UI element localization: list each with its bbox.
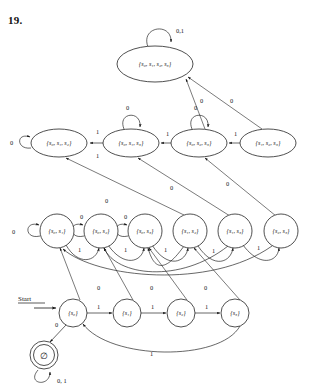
state-label-s0: {s₀} <box>68 309 78 317</box>
state-node-s2[interactable]: {s₂} <box>167 299 195 327</box>
edge-s013-self <box>123 115 140 129</box>
state-label-empty: ∅ <box>40 351 48 361</box>
edge-s23-s01-arc <box>63 246 272 275</box>
edge-label-s123-s0123: 0 <box>230 97 233 104</box>
edge-s12-s012 <box>66 158 184 215</box>
state-node-s02[interactable]: {s₀, s₂} <box>84 214 118 248</box>
edge-label-s013-s012: 1 <box>96 128 99 135</box>
edge-label-s02-self: 0 <box>80 213 83 220</box>
state-label-s013: {s₀, s₁, s₃} <box>119 139 144 147</box>
edge-label-s13-s013: 0 <box>170 184 173 191</box>
state-diagram: {s₀, s₁, s₂, s₃} {s₀, s₁, s₂} {s₀, s₁, s… <box>0 0 310 388</box>
edge-label-s123-s023: 1 <box>234 130 237 137</box>
edge-label-s0-s1: 1 <box>97 303 100 310</box>
edge-s0123-self <box>147 29 171 47</box>
edge-label-s023-s013: 1 <box>166 130 169 137</box>
edge-label-s0123-self: 0,1 <box>176 27 184 34</box>
state-node-s023[interactable]: {s₀, s₂, s₃} <box>171 129 227 157</box>
edge-label-s23-s023: 0 <box>226 180 229 187</box>
state-label-s012: {s₀, s₁, s₂} <box>47 139 72 147</box>
automaton-figure: 19. <box>0 0 310 388</box>
state-node-s013[interactable]: {s₀, s₁, s₃} <box>103 129 159 157</box>
edge-s12-s13 <box>198 246 233 261</box>
edge-s01-self <box>28 224 40 236</box>
state-label-s2: {s₂} <box>176 309 186 317</box>
state-node-s03[interactable]: {s₀, s₃} <box>128 214 162 248</box>
start-label: Start <box>18 295 31 303</box>
edge-label-s2-s3: 1 <box>205 303 208 310</box>
edge-s012-self <box>20 136 31 148</box>
edge-label-s023-self: 0 <box>194 104 197 111</box>
edge-label-s012-self: 0 <box>10 139 13 146</box>
edge-s13-s013 <box>138 158 230 216</box>
state-node-s3[interactable]: {s₃} <box>221 299 249 327</box>
edge-s0-s01 <box>60 248 80 300</box>
edge-label-empty-self: 0, 1 <box>57 377 67 384</box>
state-node-s0[interactable]: {s₀} <box>59 299 87 327</box>
state-node-s012[interactable]: {s₀, s₁, s₂} <box>31 129 87 157</box>
state-label-s13: {s₁, s₃} <box>226 227 244 235</box>
state-node-s1[interactable]: {s₁} <box>113 299 141 327</box>
edge-s3-s0 <box>83 324 240 352</box>
edge-label-s03-self: 0 <box>124 213 127 220</box>
edge-label-s01-self: 0 <box>12 228 15 235</box>
edge-label-s0-empty: 0 <box>55 321 58 328</box>
edge-label-s1-s2: 1 <box>151 303 154 310</box>
edge-labels-layer: 0,1 0 0 0 1 1 1 1 0 0 0 0 0 0 0 0 1 1 1 … <box>10 27 260 384</box>
state-label-s12: {s₁, s₂} <box>181 227 199 235</box>
edge-s1-s02 <box>104 248 133 300</box>
state-label-s02: {s₀, s₂} <box>92 227 110 235</box>
state-label-s123: {s₁, s₂, s₃} <box>256 139 281 147</box>
edge-label-s3-s0: 1 <box>150 350 153 357</box>
state-label-s1: {s₁} <box>122 309 132 317</box>
state-label-s0123: {s₀, s₁, s₂, s₃} <box>139 60 172 68</box>
edge-label-s02-s03: 1 <box>124 246 127 253</box>
state-node-s01[interactable]: {s₀, s₁} <box>40 214 74 248</box>
edge-empty-self <box>35 370 50 382</box>
edge-s01-s02 <box>66 245 99 260</box>
edge-s2-s03 <box>149 248 187 300</box>
edge-label-s012-s013: 1 <box>96 152 99 159</box>
edge-label-s03-s12: 1 <box>164 246 167 253</box>
edge-label-s12-s13: 1 <box>212 247 215 254</box>
state-label-s01: {s₀, s₁} <box>48 227 66 235</box>
nodes-layer: {s₀, s₁, s₂, s₃} {s₀, s₁, s₂} {s₀, s₁, s… <box>30 46 298 369</box>
edge-label-s01-s02: 1 <box>78 246 81 253</box>
state-node-s23[interactable]: {s₂, s₃} <box>264 214 298 248</box>
edge-s023-self <box>191 115 208 129</box>
edge-label-s013-self: 0 <box>126 104 129 111</box>
state-label-s3: {s₃} <box>230 309 240 317</box>
edge-label-s13-s23: 1 <box>257 244 260 251</box>
edge-label-s0-s01: 0 <box>97 284 100 291</box>
state-node-s123[interactable]: {s₁, s₂, s₃} <box>240 129 296 157</box>
state-node-s13[interactable]: {s₁, s₃} <box>218 214 252 248</box>
state-label-s23: {s₂, s₃} <box>272 227 290 235</box>
state-node-s0123[interactable]: {s₀, s₁, s₂, s₃} <box>117 46 193 82</box>
edge-s3-s12 <box>194 248 240 300</box>
edge-label-s023-s0123: 0 <box>200 97 203 104</box>
edge-label-s1-s02: 0 <box>150 284 153 291</box>
state-node-empty[interactable]: ∅ <box>30 341 58 369</box>
state-label-s03: {s₀, s₃} <box>136 227 154 235</box>
state-node-s12[interactable]: {s₁, s₂} <box>173 214 207 248</box>
edge-label-s2-s03: 0 <box>204 284 207 291</box>
state-label-s023: {s₀, s₂, s₃} <box>187 139 212 147</box>
edge-label-s12-s012: 0 <box>105 197 108 204</box>
